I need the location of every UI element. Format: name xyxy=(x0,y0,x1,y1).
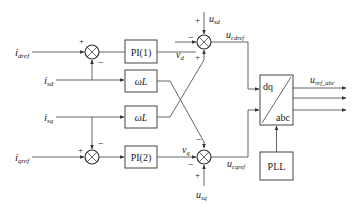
wl1-label: ωL xyxy=(135,76,148,87)
label-uref-abc: uref_abc xyxy=(310,74,335,86)
dq-label: dq xyxy=(263,81,273,92)
label-isd: isd xyxy=(44,74,54,88)
label-usq: usq xyxy=(196,189,208,201)
abc-label: abc xyxy=(276,112,290,123)
label-vq: vq xyxy=(182,144,190,156)
ucdref-line xyxy=(211,42,259,89)
sign-plus: + xyxy=(195,170,200,180)
label-ucdref: ucdref xyxy=(226,29,245,41)
sign-minus: − xyxy=(188,32,194,43)
sign-plus: + xyxy=(195,15,200,25)
label-isq: isq xyxy=(44,111,54,125)
ucqref-line xyxy=(211,110,259,157)
control-diagram: idref isd isq iqref + − PI(1) ωL ωL + − … xyxy=(0,0,361,204)
sign-plus: + xyxy=(195,52,200,62)
sign-minus: − xyxy=(188,159,194,170)
label-vd: vd xyxy=(176,49,184,61)
wl2-label: ωL xyxy=(135,112,148,123)
pi1-label: PI(1) xyxy=(131,47,152,59)
sign-plus: + xyxy=(79,36,84,46)
sign-minus: − xyxy=(98,57,104,68)
sign-minus: − xyxy=(98,138,104,149)
pi2-label: PI(2) xyxy=(131,152,152,164)
label-ucqref: ucqref xyxy=(227,158,246,170)
pll-label: PLL xyxy=(268,161,286,172)
label-usd: usd xyxy=(209,13,221,25)
sign-minus: − xyxy=(196,134,202,145)
sign-plus: + xyxy=(78,145,83,155)
label-idref: idref xyxy=(15,46,30,60)
label-iqref: iqref xyxy=(15,151,30,165)
